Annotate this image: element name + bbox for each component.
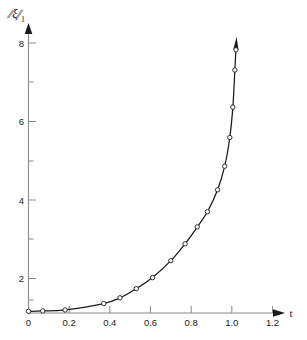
x-axis-label: t [289, 307, 292, 319]
y-axis-arrowhead [25, 23, 33, 34]
data-point-marker [63, 308, 67, 312]
data-point-marker [205, 210, 209, 214]
y-axis-group [25, 23, 33, 313]
x-tick-labels: 0 0.2 0.4 0.6 0.8 1.0 1.2 [26, 317, 279, 328]
x-tick-label-0p8: 0.8 [185, 317, 198, 328]
x-tick-label-0: 0 [26, 317, 31, 328]
x-tick-label-1p2: 1.2 [266, 317, 279, 328]
y-tick-labels: 8 6 4 2 [19, 38, 24, 285]
data-point-marker [102, 301, 106, 305]
data-point-marker [228, 135, 232, 139]
data-point-marker [183, 242, 187, 246]
y-tick-label-6: 6 [19, 116, 24, 127]
x-axis-arrowhead [273, 309, 285, 317]
data-point-marker [231, 105, 235, 109]
blowup-curve [29, 50, 236, 312]
y-tick-label-8: 8 [19, 38, 24, 49]
x-tick-label-0p6: 0.6 [144, 317, 157, 328]
data-series-layer [26, 37, 238, 314]
data-point-marker [41, 309, 45, 313]
data-point-marker [234, 48, 238, 52]
data-point-marker [195, 225, 199, 229]
x-tick-label-0p4: 0.4 [103, 317, 116, 328]
data-point-marker [26, 309, 30, 313]
x-tick-label-1p0: 1.0 [225, 317, 238, 328]
data-point-marker [169, 258, 173, 262]
chart-figure: ∕∕ξ∕∕1 8 6 4 2 [0, 0, 307, 340]
y-tick-label-2: 2 [19, 273, 24, 284]
plot-canvas: 8 6 4 2 0 0.2 0.4 0.6 0.8 1.0 1.2 t [0, 0, 307, 340]
y-tick-marks [29, 43, 37, 300]
data-point-marker [215, 188, 219, 192]
x-tick-label-0p2: 0.2 [63, 317, 76, 328]
data-point-marker [134, 287, 138, 291]
y-tick-label-4: 4 [19, 195, 24, 206]
data-point-marker [118, 296, 122, 300]
data-point-markers [26, 48, 238, 314]
data-point-marker [223, 164, 227, 168]
data-point-marker [150, 275, 154, 279]
data-point-marker [233, 68, 237, 72]
